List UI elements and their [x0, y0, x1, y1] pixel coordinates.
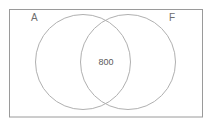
venn-diagram-canvas: A F 800	[0, 0, 212, 124]
intersection-region-value: 800	[98, 57, 113, 67]
venn-diagram-figure: A F 800	[0, 0, 212, 124]
set-label-f: F	[169, 12, 175, 23]
set-label-a: A	[31, 12, 38, 23]
